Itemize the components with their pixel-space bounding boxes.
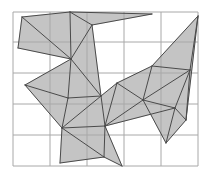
mesh-fill-layer — [18, 12, 198, 166]
triangulated-mesh-diagram — [0, 0, 211, 179]
